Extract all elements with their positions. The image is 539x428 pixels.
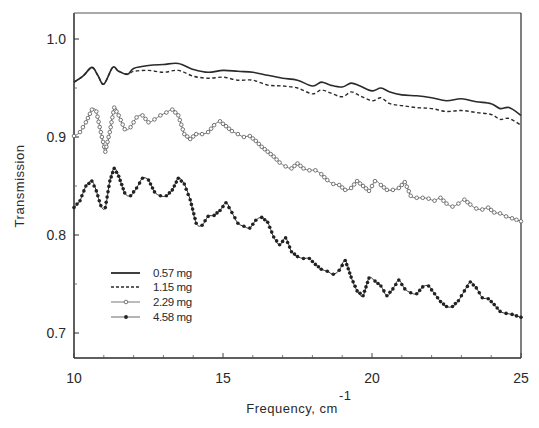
legend-item-2-29mg: 2.29 mg (111, 296, 192, 308)
y-axis-label: Transmission (12, 145, 27, 228)
legend-item-1-15mg: 1.15 mg (111, 281, 192, 293)
legend-item-0-57mg: 0.57 mg (111, 267, 192, 279)
y-tick-label: 0.8 (47, 227, 67, 243)
x-axis-label-superscript: -1 (339, 388, 352, 403)
transmission-chart: 0.70.80.91.0 10152025 Transmission Frequ… (0, 0, 539, 428)
y-tick-label: 0.9 (47, 129, 67, 145)
legend-label: 4.58 mg (153, 311, 192, 323)
x-tick-label: 10 (66, 370, 82, 386)
legend-label: 1.15 mg (153, 281, 192, 293)
x-tick-label: 15 (215, 370, 231, 386)
open-circle-marker-icon (124, 300, 128, 304)
y-tick-label: 1.0 (47, 31, 67, 47)
x-tick-label: 25 (513, 370, 529, 386)
series-0-57-mg (74, 63, 521, 115)
series-2-29-mg (72, 106, 523, 223)
x-tick-label: 20 (364, 370, 380, 386)
legend-label: 2.29 mg (153, 296, 192, 308)
x-axis-label: Frequency, cm (246, 401, 338, 416)
filled-circle-marker-icon (124, 315, 128, 319)
series-layer (72, 63, 523, 319)
legend-item-4-58mg: 4.58 mg (111, 311, 192, 323)
y-tick-label: 0.7 (47, 325, 67, 341)
legend-label: 0.57 mg (153, 267, 192, 279)
series-4-58-mg (72, 167, 523, 320)
legend: 0.57 mg 1.15 mg 2.29 mg 4.58 mg (111, 267, 192, 323)
